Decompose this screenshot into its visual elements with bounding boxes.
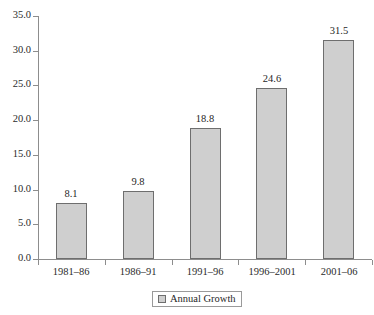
bar xyxy=(56,203,87,259)
y-tick-mark xyxy=(33,16,38,17)
y-tick-mark xyxy=(33,85,38,86)
x-axis-line xyxy=(38,259,372,260)
series-swatch-icon xyxy=(158,295,166,303)
bar-value-label: 8.1 xyxy=(64,188,77,199)
bar xyxy=(323,40,354,259)
y-tick-mark xyxy=(33,155,38,156)
x-tick-mark xyxy=(305,260,306,265)
y-tick-label: 15.0 xyxy=(0,148,31,159)
y-tick-mark xyxy=(33,51,38,52)
bar-chart: 0.05.010.015.020.025.030.035.0 1981–8619… xyxy=(0,0,374,315)
x-tick-mark xyxy=(105,260,106,265)
y-tick-label: 30.0 xyxy=(0,44,31,55)
bar xyxy=(256,88,287,259)
bar xyxy=(190,128,221,259)
y-tick-mark xyxy=(33,224,38,225)
x-axis-category-label: 1991–96 xyxy=(187,266,224,277)
y-tick-label: 20.0 xyxy=(0,113,31,124)
legend-label: Annual Growth xyxy=(170,294,236,305)
x-axis-category-label: 1986–91 xyxy=(120,266,157,277)
y-tick-mark xyxy=(33,120,38,121)
y-tick-label: 0.0 xyxy=(0,252,31,263)
bar-value-label: 9.8 xyxy=(131,176,144,187)
x-axis-category-label: 1981–86 xyxy=(53,266,90,277)
bar-value-label: 24.6 xyxy=(263,73,281,84)
chart-legend: Annual Growth xyxy=(152,291,242,307)
x-tick-mark xyxy=(238,260,239,265)
y-tick-label: 5.0 xyxy=(0,217,31,228)
x-tick-mark xyxy=(372,260,373,265)
x-axis-category-label: 2001–06 xyxy=(321,266,358,277)
y-tick-label: 35.0 xyxy=(0,9,31,20)
x-axis-category-label: 1996–2001 xyxy=(248,266,295,277)
y-tick-label: 25.0 xyxy=(0,78,31,89)
y-tick-mark xyxy=(33,190,38,191)
y-axis-line xyxy=(38,16,39,260)
bar-value-label: 31.5 xyxy=(330,25,348,36)
bar xyxy=(123,191,154,259)
x-tick-mark xyxy=(172,260,173,265)
x-tick-mark xyxy=(38,260,39,265)
bar-value-label: 18.8 xyxy=(196,113,214,124)
y-tick-label: 10.0 xyxy=(0,183,31,194)
